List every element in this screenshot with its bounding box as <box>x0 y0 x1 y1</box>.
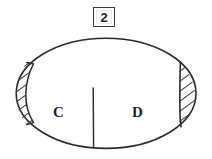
region-label-c: C <box>53 105 64 120</box>
region-label-d: D <box>132 105 143 120</box>
ellipse-diagram <box>0 0 212 159</box>
figure-canvas: 2 <box>0 0 212 159</box>
ellipse-outline <box>16 38 196 148</box>
